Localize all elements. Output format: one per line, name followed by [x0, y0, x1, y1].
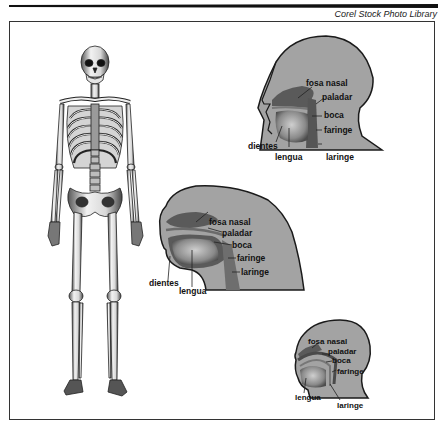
label-laringe: laringe: [326, 152, 354, 162]
label-boca: boca: [232, 240, 252, 250]
label-fosa-nasal: fosa nasal: [209, 217, 251, 227]
label-boca: boca: [324, 110, 344, 120]
label-faringe: faringe: [337, 367, 364, 376]
skeleton: [48, 46, 143, 396]
label-paladar: paladar: [328, 347, 356, 356]
label-fosa-nasal: fosa nasal: [308, 337, 347, 346]
label-paladar: paladar: [322, 92, 353, 102]
label-lengua: lengua: [295, 393, 321, 402]
hands: [48, 222, 143, 246]
label-lengua: lengua: [179, 286, 207, 296]
head-diagram-ape: fosa nasal paladar boca faringe laringe …: [149, 186, 304, 296]
label-laringe: laringe: [241, 267, 269, 277]
label-dientes: dientes: [149, 278, 179, 288]
figure-art: fosa nasal paladar boca faringe dientes …: [0, 0, 443, 429]
label-paladar: paladar: [222, 228, 253, 238]
head-diagram-adult: fosa nasal paladar boca faringe dientes …: [248, 36, 382, 162]
skull: [81, 46, 109, 84]
label-fosa-nasal: fosa nasal: [306, 78, 348, 88]
spine: [90, 150, 100, 191]
label-dientes: dientes: [248, 141, 278, 151]
label-faringe: faringe: [324, 125, 353, 135]
legs: [69, 212, 121, 380]
label-laringe: laringe: [337, 401, 364, 410]
label-faringe: faringe: [237, 253, 266, 263]
feet: [64, 380, 127, 396]
head-diagram-infant: fosa nasal paladar boca faringe lengua l…: [295, 320, 370, 410]
label-boca: boca: [332, 356, 351, 365]
label-lengua: lengua: [275, 152, 303, 162]
